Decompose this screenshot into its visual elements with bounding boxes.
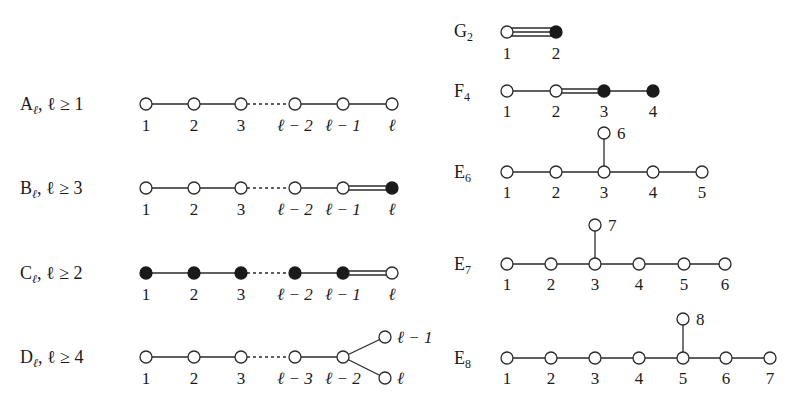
node-a-2: [188, 98, 200, 110]
node-c-l-2: [289, 267, 301, 279]
label-g2-1: 1: [503, 44, 512, 63]
node-f4-4: [647, 85, 659, 97]
diagram-b: Bℓ, ℓ ≥ 3 1 2 3 ℓ − 2 ℓ − 1 ℓ: [20, 178, 398, 219]
node-e7-2: [545, 258, 557, 270]
label-c-1: 1: [142, 285, 151, 304]
label-a-1: 1: [142, 116, 151, 135]
diagram-e6: E6 1 2 3 4 5 6: [454, 124, 708, 202]
diagram-e7-name: E7: [454, 254, 471, 277]
dynkin-diagrams: .e { stroke: #2a2a2a; stroke-width: 1.3;…: [0, 0, 801, 413]
label-a-l-2: ℓ − 2: [277, 116, 313, 135]
label-e7-4: 4: [635, 275, 644, 294]
node-e6-1: [501, 166, 513, 178]
node-e7-3: [589, 258, 601, 270]
label-e7-5: 5: [680, 275, 689, 294]
label-d-1: 1: [142, 369, 151, 388]
node-b-l: [386, 182, 398, 194]
diagram-a-name: Aℓ, ℓ ≥ 1: [20, 94, 84, 117]
label-e6-3: 3: [600, 183, 609, 202]
label-f4-2: 2: [552, 102, 561, 121]
node-e7-7: [589, 219, 601, 231]
diagram-e8: E8 1 2 3 4 5 6 7 8: [454, 310, 776, 388]
node-a-l-1: [337, 98, 349, 110]
label-c-2: 2: [190, 285, 199, 304]
node-e8-7: [764, 352, 776, 364]
diagram-d-name: Dℓ, ℓ ≥ 4: [20, 347, 84, 370]
node-e7-1: [501, 258, 513, 270]
node-f4-2: [550, 85, 562, 97]
diagram-f4: F4 1 2 3 4: [454, 81, 659, 121]
node-e8-2: [545, 352, 557, 364]
label-a-3: 3: [237, 116, 246, 135]
node-f4-1: [501, 85, 513, 97]
node-a-3: [235, 98, 247, 110]
label-e7-2: 2: [547, 275, 556, 294]
label-e8-2: 2: [547, 369, 556, 388]
node-e6-5: [696, 166, 708, 178]
label-d-l: ℓ: [397, 369, 404, 388]
node-c-3: [235, 267, 247, 279]
diagram-f4-name: F4: [454, 81, 470, 104]
node-e8-3: [589, 352, 601, 364]
node-a-l: [386, 98, 398, 110]
node-d-l: [379, 372, 391, 384]
label-e8-8: 8: [696, 310, 705, 329]
label-d-2: 2: [190, 369, 199, 388]
node-c-1: [140, 267, 152, 279]
node-d-2: [188, 351, 200, 363]
diagram-e7: E7 1 2 3 4 5 6 7: [454, 216, 731, 294]
node-b-2: [188, 182, 200, 194]
node-c-2: [188, 267, 200, 279]
label-e8-3: 3: [591, 369, 600, 388]
node-c-l-1: [337, 267, 349, 279]
label-e8-7: 7: [766, 369, 775, 388]
node-e8-6: [720, 352, 732, 364]
label-c-3: 3: [237, 285, 246, 304]
label-e6-1: 1: [503, 183, 512, 202]
diagram-e8-name: E8: [454, 348, 471, 371]
node-a-l-2: [289, 98, 301, 110]
diagram-g2-name: G2: [454, 21, 473, 44]
diagram-c: Cℓ, ℓ ≥ 2 1 2 3 ℓ − 2 ℓ − 1 ℓ: [20, 263, 398, 304]
label-b-l-1: ℓ − 1: [325, 200, 361, 219]
label-e6-5: 5: [698, 183, 707, 202]
node-e8-1: [501, 352, 513, 364]
diagram-g2: G2 1 2: [454, 21, 562, 63]
node-b-1: [140, 182, 152, 194]
node-g2-1: [501, 26, 513, 38]
diagram-c-name: Cℓ, ℓ ≥ 2: [20, 263, 83, 286]
label-b-2: 2: [190, 200, 199, 219]
node-e6-4: [647, 166, 659, 178]
label-e7-1: 1: [503, 275, 512, 294]
node-f4-3: [598, 85, 610, 97]
label-f4-3: 3: [600, 102, 609, 121]
node-b-l-2: [289, 182, 301, 194]
label-b-l-2: ℓ − 2: [277, 200, 313, 219]
label-e8-6: 6: [722, 369, 731, 388]
label-a-l-1: ℓ − 1: [325, 116, 361, 135]
node-b-l-1: [337, 182, 349, 194]
node-b-3: [235, 182, 247, 194]
node-d-l-1: [379, 331, 391, 343]
label-e6-4: 4: [649, 183, 658, 202]
label-d-l-2: ℓ − 2: [325, 369, 361, 388]
node-d-1: [140, 351, 152, 363]
label-e8-1: 1: [503, 369, 512, 388]
node-d-l-2: [337, 351, 349, 363]
label-d-l-1: ℓ − 1: [397, 328, 433, 347]
label-d-3: 3: [237, 369, 246, 388]
label-a-2: 2: [190, 116, 199, 135]
diagram-e6-name: E6: [454, 162, 471, 185]
label-f4-1: 1: [503, 102, 512, 121]
node-g2-2: [550, 26, 562, 38]
node-c-l: [386, 267, 398, 279]
label-e6-2: 2: [552, 183, 561, 202]
node-e7-5: [678, 258, 690, 270]
label-c-l-2: ℓ − 2: [277, 285, 313, 304]
label-d-l-3: ℓ − 3: [277, 369, 313, 388]
label-e8-5: 5: [679, 369, 688, 388]
node-e6-3: [598, 166, 610, 178]
node-d-3: [235, 351, 247, 363]
label-b-1: 1: [142, 200, 151, 219]
node-e7-4: [633, 258, 645, 270]
